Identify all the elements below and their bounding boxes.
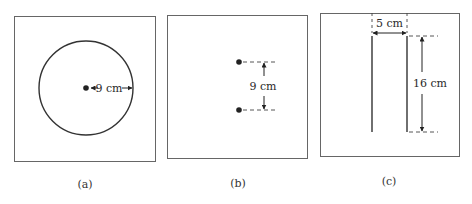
caption-a: (a) [77,178,92,191]
panel-b: 9 cm (b) [168,16,308,191]
point-charge-top [236,59,242,65]
panel-c: 5 cm 16 cm (c) [321,13,460,188]
panel-b-frame [168,16,308,159]
caption-c: (c) [382,175,397,188]
separation-label: 9 cm [249,80,277,93]
radius-label: 9 cm [95,82,123,95]
wire-separation-label: 5 cm [376,17,404,30]
wire-length-label: 16 cm [413,77,448,90]
figure-canvas: 9 cm (a) 9 cm (b) 5 cm 16 cm (c) [0,0,472,204]
center-point [83,85,89,91]
caption-b: (b) [230,177,246,190]
panel-a: 9 cm (a) [15,17,156,192]
point-charge-bottom [236,107,242,113]
